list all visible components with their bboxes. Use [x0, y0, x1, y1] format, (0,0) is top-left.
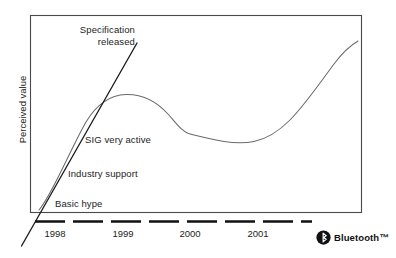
y-axis-label: Perceived value [17, 55, 28, 165]
x-tick-label-2001: 2001 [238, 228, 278, 239]
annotation-specification-released-line2: released [98, 36, 135, 47]
bluetooth-brand-lockup: Bluetooth™ [316, 230, 389, 245]
bluetooth-wordmark: Bluetooth™ [334, 232, 389, 243]
annotation-industry-support: Industry support [68, 168, 138, 180]
x-tick-label-2000: 2000 [170, 228, 210, 239]
annotation-specification-released-line1: Specification [80, 24, 135, 35]
annotation-specification-released: Specification released [57, 24, 135, 47]
annotation-sig-very-active: SIG very active [85, 134, 151, 146]
bluetooth-icon [316, 230, 331, 245]
annotation-basic-hype: Basic hype [55, 198, 102, 210]
x-tick-label-1998: 1998 [35, 228, 75, 239]
chart-figure: Perceived value Specification released S… [0, 0, 396, 258]
x-tick-label-1999: 1999 [103, 228, 143, 239]
